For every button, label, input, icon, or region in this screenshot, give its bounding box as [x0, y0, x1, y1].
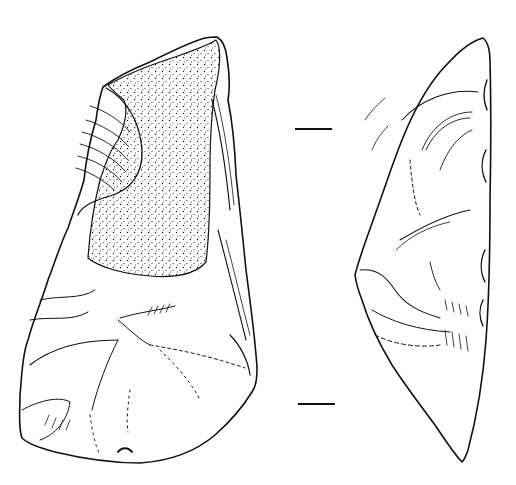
profile-view [355, 38, 491, 462]
flint-tool-drawing [0, 0, 516, 485]
profile-outline [355, 38, 491, 462]
scale-ticks [295, 129, 335, 404]
cortex-area [88, 40, 220, 277]
dorsal-face-view [20, 37, 257, 463]
figure-canvas [0, 0, 516, 485]
